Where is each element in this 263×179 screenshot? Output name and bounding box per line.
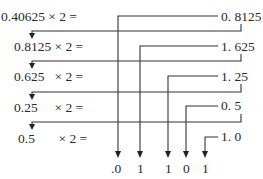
step-4-expression: 0.25 × 2 = <box>14 100 83 115</box>
step-2-expression: 0.8125 × 2 = <box>14 39 83 54</box>
step-3-expression: 0.625 × 2 = <box>14 69 83 84</box>
step-3-result: 1. 25 <box>221 69 248 84</box>
step-1-expression: 0.40625 × 2 = <box>1 9 77 24</box>
binary-digit-0: .0 <box>111 161 121 176</box>
step-5-expression: 0.5 × 2 = <box>18 131 87 146</box>
step-2-result: 1. 625 <box>221 39 255 54</box>
binary-digit-2: 1 <box>165 161 172 176</box>
integer-part-lines <box>115 16 218 158</box>
binary-digit-3: 0 <box>183 161 190 176</box>
step-4-result: 0. 5 <box>221 98 242 113</box>
binary-digit-1: 1 <box>137 161 144 176</box>
step-1-result: 0. 8125 <box>221 9 262 24</box>
binary-conversion-diagram: 0.40625 × 2 = 0.8125 × 2 = 0.625 × 2 = 0… <box>0 0 263 179</box>
binary-digit-4: 1 <box>202 161 209 176</box>
step-5-result: 1. 0 <box>221 129 242 144</box>
